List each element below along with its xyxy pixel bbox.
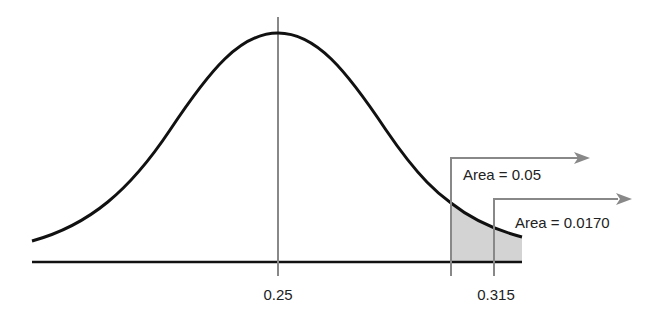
mean-tick-label: 0.25 — [263, 286, 292, 303]
stat-tick-label: 0.315 — [477, 286, 515, 303]
area-0170-label: Area = 0.0170 — [515, 214, 610, 231]
arrow-right-icon — [616, 193, 632, 205]
area-005-label: Area = 0.05 — [463, 166, 541, 183]
normal-distribution-chart: Area = 0.05 Area = 0.0170 0.25 0.315 — [0, 0, 656, 322]
